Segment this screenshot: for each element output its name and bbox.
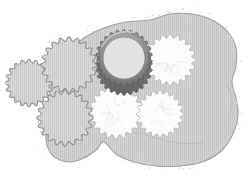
flour-speck: [89, 68, 90, 69]
flour-speck: [151, 167, 152, 168]
flour-speck: [158, 15, 160, 17]
flour-speck: [50, 137, 52, 139]
flour-speck: [94, 60, 95, 61]
flour-speck: [189, 167, 191, 169]
flour-speck: [159, 19, 160, 20]
flour-speck: [238, 128, 240, 130]
flour-speck: [93, 69, 95, 71]
flour-speck: [233, 49, 234, 50]
flour-speck: [47, 143, 48, 144]
flour-speck: [131, 17, 133, 19]
flour-speck: [51, 87, 53, 89]
flour-speck: [22, 58, 23, 59]
flour-speck: [12, 71, 14, 73]
flour-speck: [237, 66, 238, 67]
flour-speck: [26, 58, 29, 61]
flour-speck: [44, 66, 45, 67]
flour-speck: [22, 61, 23, 62]
flour-speck: [86, 29, 87, 30]
flour-speck: [6, 74, 7, 75]
flour-speck: [65, 94, 66, 95]
flour-speck: [39, 103, 40, 104]
flour-speck: [148, 167, 150, 169]
cutter-inner-opening: [103, 37, 145, 79]
flour-speck: [205, 20, 207, 22]
flour-speck: [154, 14, 155, 15]
flour-speck: [97, 25, 98, 26]
flour-speck: [71, 91, 72, 92]
flour-speck: [78, 100, 80, 102]
flour-speck: [234, 64, 236, 66]
flour-speck: [156, 163, 157, 164]
flour-speck: [49, 75, 50, 76]
flour-speck: [69, 34, 70, 35]
flour-speck: [46, 68, 47, 69]
flour-speck: [12, 75, 13, 76]
flour-speck: [18, 65, 20, 67]
flour-speck: [55, 136, 56, 137]
flour-speck: [49, 150, 51, 152]
flour-speck: [90, 62, 91, 63]
flour-speck: [87, 50, 88, 51]
flour-speck: [73, 47, 75, 49]
flour-speck: [37, 56, 39, 58]
flour-speck: [94, 50, 96, 52]
flour-speck: [83, 87, 84, 88]
flour-speck: [17, 63, 19, 65]
flour-speck: [26, 65, 27, 66]
flour-speck: [182, 168, 184, 170]
flour-speck: [135, 17, 137, 19]
flour-speck: [97, 149, 98, 150]
flour-speck: [201, 157, 202, 158]
flour-speck: [40, 106, 41, 107]
flour-speck: [47, 107, 49, 109]
illustration-canvas: [0, 0, 249, 186]
flour-speck: [42, 110, 44, 112]
flour-speck: [230, 131, 232, 133]
flour-speck: [49, 77, 51, 79]
flour-speck: [61, 92, 63, 94]
flour-speck: [51, 136, 52, 137]
flour-speck: [88, 160, 89, 161]
flour-speck: [49, 88, 51, 90]
flour-speck: [179, 167, 181, 169]
flour-speck: [56, 81, 58, 83]
flour-speck: [42, 65, 43, 66]
flour-speck: [52, 85, 53, 86]
flour-speck: [38, 121, 41, 124]
flour-speck: [55, 74, 57, 76]
flour-speck: [147, 163, 149, 165]
flour-speck: [64, 64, 66, 66]
flour-speck: [49, 73, 50, 74]
flour-speck: [123, 23, 125, 25]
flour-speck: [242, 125, 243, 126]
flour-speck: [54, 70, 56, 72]
flour-speck: [122, 160, 123, 161]
flour-speck: [50, 73, 52, 75]
flour-speck: [58, 159, 60, 161]
flour-speck: [5, 82, 7, 84]
flour-speck: [63, 169, 64, 170]
flour-speck: [233, 90, 235, 92]
flour-speck: [91, 153, 92, 154]
flour-speck: [42, 101, 44, 103]
flour-speck: [235, 99, 236, 100]
flour-speck: [65, 35, 67, 37]
flour-speck: [180, 163, 181, 164]
flour-speck: [187, 16, 189, 18]
flour-speck: [231, 38, 233, 40]
flour-speck: [162, 168, 163, 169]
flour-speck: [78, 141, 80, 143]
flour-speck: [30, 62, 32, 64]
flour-speck: [56, 41, 58, 43]
flour-speck: [140, 158, 142, 160]
flour-speck: [40, 109, 42, 111]
flour-speck: [237, 117, 238, 118]
flour-speck: [47, 152, 48, 153]
flour-speck: [62, 159, 63, 160]
flour-speck: [72, 94, 73, 95]
flour-speck: [48, 146, 49, 147]
flour-speck: [63, 42, 65, 44]
flour-speck: [54, 94, 55, 95]
flour-speck: [43, 56, 45, 58]
